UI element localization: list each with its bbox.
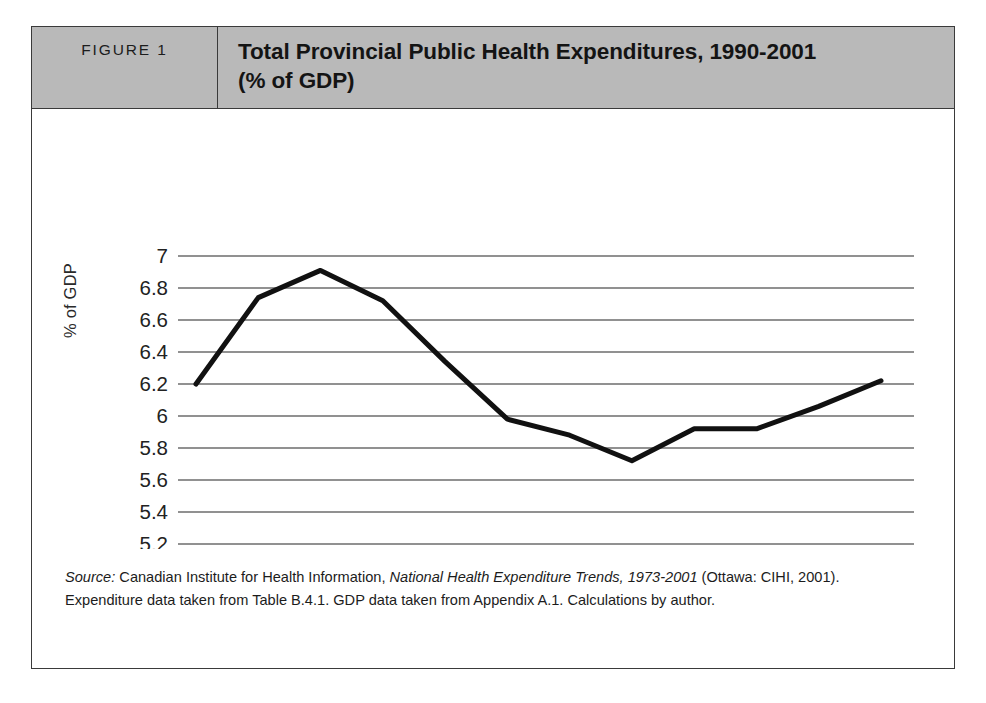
y-tick-label: 6.6	[140, 308, 169, 331]
line-chart: 76.86.66.46.265.85.65.45.25 199019911992…	[32, 109, 956, 549]
y-tick-label: 6.8	[140, 276, 169, 299]
y-tick-label: 6	[157, 404, 168, 427]
y-tick-label: 6.4	[140, 340, 169, 363]
source-lead: Source:	[65, 569, 115, 585]
figure-body: 76.86.66.46.265.85.65.45.25 199019911992…	[32, 109, 954, 668]
figure-title-cell: Total Provincial Public Health Expenditu…	[218, 27, 954, 108]
y-tick-label: 5.6	[140, 468, 169, 491]
figure-title-line-1: Total Provincial Public Health Expenditu…	[238, 37, 954, 66]
y-tick-label: 5.4	[140, 500, 169, 523]
figure-label: FIGURE 1	[81, 41, 168, 59]
y-axis-tick-labels: 76.86.66.46.265.85.65.45.25	[140, 244, 169, 549]
data-series-line	[196, 270, 881, 460]
y-axis-title: % of GDP	[61, 241, 80, 361]
figure-title-line-2: (% of GDP)	[238, 66, 954, 95]
y-tick-label: 6.2	[140, 372, 169, 395]
y-tick-label: 5.2	[140, 532, 169, 549]
figure-container: FIGURE 1 Total Provincial Public Health …	[31, 26, 955, 669]
source-publication: National Health Expenditure Trends, 1973…	[390, 569, 698, 585]
y-tick-label: 7	[157, 244, 168, 267]
source-text-before: Canadian Institute for Health Informatio…	[115, 569, 389, 585]
gridlines-group	[178, 256, 914, 549]
figure-header: FIGURE 1 Total Provincial Public Health …	[32, 27, 954, 109]
figure-label-cell: FIGURE 1	[32, 27, 218, 108]
source-note: Source: Canadian Institute for Health In…	[65, 566, 910, 612]
y-tick-label: 5.8	[140, 436, 169, 459]
chart-area: 76.86.66.46.265.85.65.45.25 199019911992…	[32, 109, 956, 549]
